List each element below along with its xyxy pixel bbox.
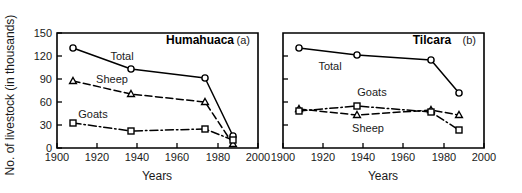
panel-b-goats-point [296, 108, 302, 114]
panel-a-goats-point [202, 126, 208, 132]
y-tick-60: 60 [40, 96, 52, 108]
panel-b-total-point [354, 52, 360, 58]
panel-a-label-goats: Goats [78, 108, 108, 120]
x-tick-1920: 1920 [85, 151, 109, 163]
x-tick-1920: 1920 [311, 151, 335, 163]
panel-tilcara: 1900 1920 1940 1960 1980 2000 Years Tilc… [271, 33, 496, 183]
y-tick-150: 150 [34, 27, 52, 39]
x-tick-1900: 1900 [271, 151, 295, 163]
panel-a-series-total [70, 45, 236, 139]
figure-container: No. of livestock (in thousands) 0 30 60 … [0, 0, 522, 193]
panel-a-y-ticklabels: 0 30 60 90 120 150 [34, 27, 52, 154]
x-tick-1940: 1940 [125, 151, 149, 163]
panel-a-sheep-point [70, 78, 77, 84]
panel-b-goats-point [456, 127, 462, 133]
panel-a-series-goats [70, 120, 236, 143]
y-axis-title: No. of livestock (in thousands) [3, 15, 17, 176]
panel-b-letter: (b) [463, 34, 476, 46]
panel-b-total-point [296, 45, 302, 51]
y-tick-30: 30 [40, 119, 52, 131]
panel-a-goats-line [73, 123, 233, 140]
x-tick-1960: 1960 [391, 151, 415, 163]
panel-a-goats-point [70, 120, 76, 126]
panel-a-total-point [128, 66, 134, 72]
panel-a-title: Humahuaca [166, 33, 234, 47]
panel-a-total-point [70, 45, 76, 51]
x-tick-2000: 2000 [246, 151, 270, 163]
panel-a-x-axis-title: Years [142, 169, 172, 183]
panel-a-goats-point [128, 128, 134, 134]
x-tick-1980: 1980 [206, 151, 230, 163]
x-tick-2000: 2000 [472, 151, 496, 163]
panel-a-total-line [73, 48, 233, 136]
panel-a-sheep-point [202, 99, 209, 105]
panel-b-x-axis-title: Years [368, 169, 398, 183]
panel-a-label-sheep: Sheep [96, 73, 128, 85]
panel-b-label-sheep: Sheep [352, 122, 384, 134]
x-tick-1940: 1940 [351, 151, 375, 163]
panel-b-x-ticklabels: 1900 1920 1940 1960 1980 2000 [271, 151, 496, 163]
y-tick-120: 120 [34, 50, 52, 62]
x-tick-1960: 1960 [165, 151, 189, 163]
panel-a-label-total: Total [110, 50, 133, 62]
panel-a-x-ticklabels: 1900 1920 1940 1960 1980 2000 [45, 151, 270, 163]
panel-a-total-point [202, 75, 208, 81]
panel-b-goats-point [428, 109, 434, 115]
x-tick-1980: 1980 [432, 151, 456, 163]
panel-b-sheep-point [456, 112, 463, 118]
livestock-two-panel-chart: No. of livestock (in thousands) 0 30 60 … [0, 0, 522, 193]
y-tick-90: 90 [40, 73, 52, 85]
panel-b-title: Tilcara [413, 33, 452, 47]
x-tick-1900: 1900 [45, 151, 69, 163]
panel-b-total-point [456, 90, 462, 96]
panel-a-letter: (a) [237, 34, 250, 46]
panel-a-sheep-point [128, 91, 135, 97]
panel-b-label-goats: Goats [357, 86, 387, 98]
panel-a-goats-point [230, 137, 236, 143]
panel-humahuaca: 0 30 60 90 120 150 1900 1920 1940 [34, 27, 271, 183]
panel-b-goats-point [354, 103, 360, 109]
panel-b-total-point [428, 57, 434, 63]
panel-b-label-total: Total [318, 60, 341, 72]
panel-b-sheep-point [354, 112, 361, 118]
